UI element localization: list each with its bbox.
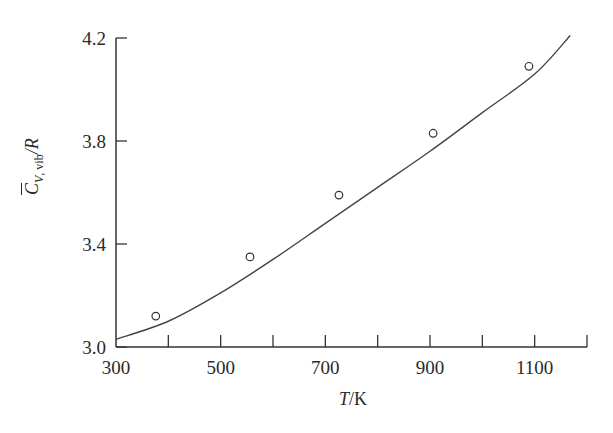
x-tick-label: 300 bbox=[102, 357, 131, 378]
data-point-marker bbox=[429, 129, 437, 137]
x-tick-label: 1100 bbox=[516, 357, 553, 378]
y-tick-label: 3.4 bbox=[82, 234, 106, 255]
y-tick-label: 3.8 bbox=[82, 131, 106, 152]
y-tick-label: 3.0 bbox=[82, 337, 106, 358]
theory-curve bbox=[116, 35, 570, 339]
x-axis-label: T/K bbox=[339, 389, 367, 409]
x-tick-label: 500 bbox=[206, 357, 235, 378]
chart-plot-area: 3.03.43.84.23005007009001100T/K bbox=[0, 0, 613, 433]
data-point-marker bbox=[525, 63, 533, 71]
data-point-marker bbox=[335, 191, 343, 199]
data-point-marker bbox=[152, 312, 160, 320]
data-point-marker bbox=[246, 253, 254, 261]
x-tick-label: 700 bbox=[311, 357, 340, 378]
y-axis-label: CV, vib/R bbox=[22, 138, 47, 195]
y-tick-label: 4.2 bbox=[82, 28, 106, 49]
x-tick-label: 900 bbox=[416, 357, 445, 378]
